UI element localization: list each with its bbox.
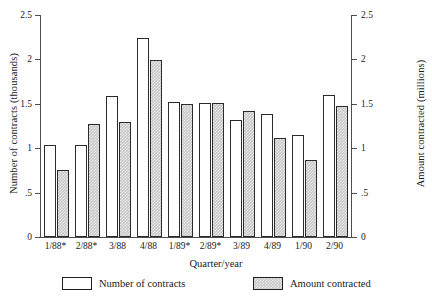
bar <box>119 122 131 237</box>
y-axis-left-title: Number of contracts (thousands) <box>8 49 19 199</box>
y-axis-right-tick-label: 2 <box>361 54 401 64</box>
legend-label-amount-contracted: Amount contracted <box>290 278 371 289</box>
y-axis-left-tick <box>35 148 40 149</box>
bar <box>137 38 149 237</box>
legend-label-number-of-contracts: Number of contracts <box>99 278 185 289</box>
y-axis-left-tick-label: 1 <box>0 143 32 153</box>
y-axis-left-tick-label: 1.5 <box>0 99 32 109</box>
bar <box>230 120 242 237</box>
bar <box>44 145 56 237</box>
y-axis-left-tick-label: 0 <box>0 232 32 242</box>
y-axis-left-tick <box>35 104 40 105</box>
y-axis-right-title: Amount contracted (millions) <box>415 44 426 204</box>
y-axis-left-tick-label: 2 <box>0 54 32 64</box>
x-axis-title: Quarter/year <box>0 258 432 269</box>
y-axis-right-tick-label: .5 <box>361 188 401 198</box>
plot-area <box>40 15 352 237</box>
legend-swatch-gray <box>253 277 283 290</box>
y-axis-right-tick <box>352 237 357 238</box>
bar <box>75 145 87 237</box>
bar <box>106 96 118 237</box>
legend-item-number-of-contracts: Number of contracts <box>62 277 185 290</box>
bar <box>181 104 193 237</box>
bar <box>199 103 211 237</box>
chart-legend: Number of contracts Amount contracted <box>0 276 432 298</box>
x-axis-tick-label: 2/90 <box>313 240 356 252</box>
y-axis-left-tick-label: 2.5 <box>0 10 32 20</box>
y-axis-left-tick <box>35 237 40 238</box>
y-axis-right-tick <box>352 59 357 60</box>
y-axis-left-tick <box>35 193 40 194</box>
bar <box>274 138 286 237</box>
y-axis-left-tick-label: .5 <box>0 188 32 198</box>
y-axis-right-tick <box>352 104 357 105</box>
y-axis-right-tick <box>352 148 357 149</box>
bar <box>243 111 255 237</box>
x-axis-line <box>40 237 352 238</box>
bar <box>150 60 162 237</box>
y-axis-right-tick-label: 1 <box>361 143 401 153</box>
bar <box>323 95 335 237</box>
legend-item-amount-contracted: Amount contracted <box>253 277 371 290</box>
x-axis-tick-labels: 1/88*2/88*3/884/881/89*2/89*3/894/891/90… <box>40 240 352 256</box>
bar <box>168 102 180 237</box>
bar <box>336 106 348 237</box>
bar <box>57 170 69 237</box>
bar <box>212 103 224 237</box>
y-axis-right-tick <box>352 193 357 194</box>
y-axis-right-tick-label: 0 <box>361 232 401 242</box>
bar <box>305 160 317 237</box>
y-axis-right-tick <box>352 15 357 16</box>
bar <box>261 114 273 237</box>
y-axis-left-tick <box>35 15 40 16</box>
chart-figure: Number of contracts (thousands) Amount c… <box>0 0 432 302</box>
bar <box>292 135 304 237</box>
bars-layer <box>41 15 352 237</box>
legend-swatch-white <box>62 277 92 290</box>
y-axis-right-tick-label: 1.5 <box>361 99 401 109</box>
y-axis-left-tick <box>35 59 40 60</box>
bar <box>88 124 100 237</box>
y-axis-right-tick-label: 2.5 <box>361 10 401 20</box>
